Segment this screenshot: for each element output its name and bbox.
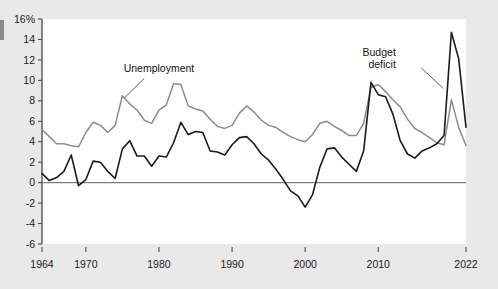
x-tick-label: 2010: [367, 258, 391, 270]
y-tick-label: 14: [23, 33, 35, 45]
x-tick-label: 1990: [220, 258, 244, 270]
y-tick-label: 6: [29, 115, 35, 127]
y-tick-label: 0: [29, 176, 35, 188]
annotation-text: deficit: [368, 58, 396, 70]
x-tick-label: 1970: [74, 258, 98, 270]
x-tick-label: 1980: [147, 258, 171, 270]
y-tick-label: 8: [29, 94, 35, 106]
y-tick-label: 12: [23, 54, 35, 66]
y-tick-label: -4: [26, 217, 35, 229]
line-chart: 16%14121086420-2-4-6 1964197019801990200…: [0, 0, 498, 289]
y-tick-label: 2: [29, 156, 35, 168]
annotation-text: Budget: [363, 46, 396, 58]
y-tick-label: 4: [29, 135, 35, 147]
x-tick-label: 2022: [454, 258, 478, 270]
y-tick-label: 16%: [14, 13, 35, 25]
plot-area: [42, 19, 466, 244]
x-tick-label: 1964: [30, 258, 54, 270]
y-tick-label: -6: [26, 238, 35, 250]
left-edge-artifact: [0, 20, 4, 40]
y-tick-label: -2: [26, 197, 35, 209]
y-tick-label: 10: [23, 74, 35, 86]
x-tick-label: 2000: [293, 258, 317, 270]
annotation-text: Unemployment: [124, 62, 195, 74]
chart-figure: 16%14121086420-2-4-6 1964197019801990200…: [0, 0, 498, 289]
